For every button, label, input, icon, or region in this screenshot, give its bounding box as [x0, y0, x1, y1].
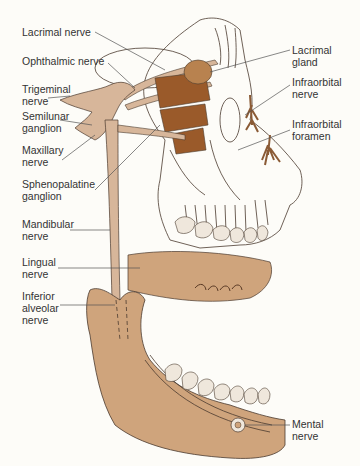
- label-line: nerve: [22, 156, 48, 168]
- label-line: alveolar: [22, 302, 59, 314]
- label-line: Infraorbital: [292, 118, 342, 130]
- tongue: [128, 251, 272, 301]
- orbit-muscles: [155, 72, 210, 154]
- label-line: nerve: [22, 230, 48, 242]
- label-inferior-alveolar-nerve: Inferioralveolarnerve: [22, 290, 59, 326]
- lacrimal-gland: [184, 60, 212, 84]
- label-line: nerve: [22, 95, 48, 107]
- label-line: Maxillary: [22, 144, 63, 156]
- mandibular-nerve-trunk: [105, 120, 120, 300]
- label-line: Sphenopalatine: [22, 178, 95, 190]
- label-lacrimal-gland: Lacrimalgland: [292, 44, 332, 68]
- label-infraorbital-nerve: Infraorbitalnerve: [292, 76, 342, 100]
- label-line: Trigeminal: [22, 83, 71, 95]
- label-line: Lacrimal: [292, 44, 332, 56]
- label-line: Infraorbital: [292, 76, 342, 88]
- label-line: nerve: [22, 314, 48, 326]
- label-line: nerve: [292, 430, 318, 442]
- label-line: foramen: [292, 130, 331, 142]
- label-sphenopalatine-ganglion: Sphenopalatineganglion: [22, 178, 95, 202]
- label-line: Mental: [292, 418, 324, 430]
- mental-nerve-exit: [235, 422, 241, 428]
- upper-teeth: [175, 217, 268, 243]
- label-line: Mandibular: [22, 218, 74, 230]
- label-semilunar-ganglion: Semilunarganglion: [22, 110, 69, 134]
- label-mandibular-nerve: Mandibularnerve: [22, 218, 74, 242]
- label-mental-nerve: Mentalnerve: [292, 418, 324, 442]
- label-line: nerve: [22, 268, 48, 280]
- label-line: nerve: [292, 88, 318, 100]
- label-line: gland: [292, 56, 318, 68]
- label-line: Semilunar: [22, 110, 69, 122]
- label-lacrimal-nerve: Lacrimal nerve: [22, 26, 91, 38]
- label-line: ganglion: [22, 122, 62, 134]
- label-line: Lingual: [22, 256, 56, 268]
- label-trigeminal-nerve: Trigeminalnerve: [22, 83, 71, 107]
- label-infraorbital-foramen: Infraorbitalforamen: [292, 118, 342, 142]
- label-maxillary-nerve: Maxillarynerve: [22, 144, 63, 168]
- label-lingual-nerve: Lingualnerve: [22, 256, 56, 280]
- label-ophthalmic-nerve: Ophthalmic nerve: [22, 55, 104, 67]
- label-line: Inferior: [22, 290, 55, 302]
- label-line: ganglion: [22, 190, 62, 202]
